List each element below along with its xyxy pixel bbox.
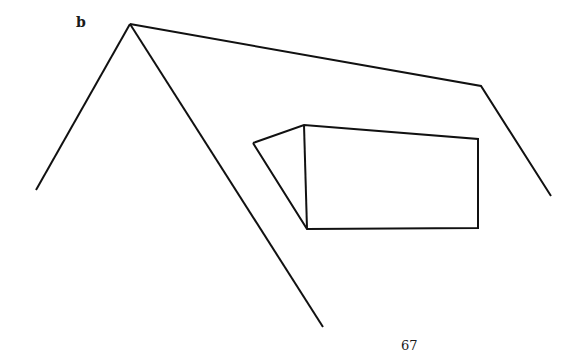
- top-line: [130, 24, 551, 196]
- page-number: 67: [401, 338, 418, 353]
- right-long-line: [130, 24, 323, 327]
- left-roof-line: [36, 24, 130, 190]
- box-outline: [253, 125, 478, 229]
- box-front-edge: [304, 125, 307, 229]
- page: b 67: [0, 0, 584, 358]
- line-drawing: [0, 0, 584, 358]
- figure-label: b: [76, 14, 86, 30]
